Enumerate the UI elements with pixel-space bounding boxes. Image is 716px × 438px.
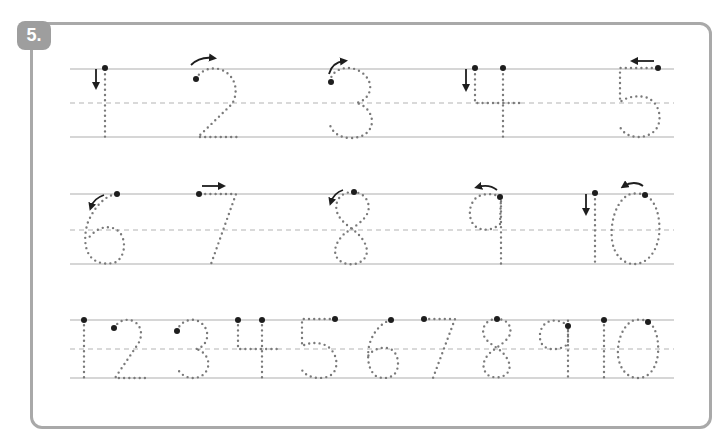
trace-digit-1[interactable] [96, 65, 108, 137]
trace-small-7[interactable] [421, 316, 455, 378]
trace-digit-4[interactable] [466, 65, 521, 137]
row-1-guides [70, 69, 674, 137]
trace-digit-3[interactable] [328, 61, 372, 138]
trace-small-5[interactable] [302, 316, 338, 378]
arrow-curve-left-icon [624, 183, 643, 186]
arrow-curve-right-icon [329, 61, 344, 74]
trace-digit-7[interactable] [196, 186, 236, 264]
row-2-guides [70, 194, 674, 264]
trace-small-4[interactable] [235, 317, 277, 378]
trace-small-10[interactable] [601, 317, 658, 378]
trace-small-6[interactable] [368, 317, 398, 378]
trace-digit-8[interactable] [331, 189, 369, 264]
trace-small-8[interactable] [483, 316, 510, 377]
row-3-guides [70, 320, 674, 378]
trace-digit-6[interactable] [85, 191, 124, 264]
trace-digit-10[interactable] [586, 183, 659, 264]
trace-digit-9[interactable] [470, 186, 503, 264]
trace-digit-5[interactable] [620, 61, 661, 137]
arrow-curve-left-icon [478, 186, 497, 190]
arrow-curve-right-icon [191, 58, 213, 65]
arrow-curve-left-icon [331, 190, 343, 202]
trace-small-1[interactable] [81, 317, 87, 378]
tracing-area [0, 0, 716, 438]
